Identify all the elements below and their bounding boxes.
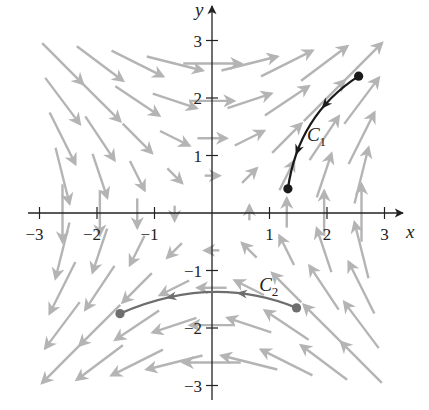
field-arrow [80,81,121,122]
y-tick-label: −1 [184,262,202,281]
x-axis-label: x [405,221,415,242]
field-arrow [50,262,76,313]
field-arrow [242,243,257,258]
field-arrow [301,46,347,81]
field-arrow [265,311,309,340]
field-arrow [228,318,272,333]
field-arrow [344,302,379,348]
field-arrow [349,262,375,313]
field-arrow [265,86,309,115]
x-tick-label: 3 [380,225,389,244]
field-arrow [112,350,163,376]
field-arrow [130,161,145,190]
field-arrow [77,46,123,81]
y-tick-label: −2 [184,319,202,338]
field-arrow [228,94,272,109]
field-arrow [123,124,152,153]
field-arrow [85,266,114,310]
field-arrow [112,51,163,77]
field-arrow [317,154,332,198]
field-arrow [160,131,189,146]
field-arrow [261,51,312,77]
field-arrow [153,94,197,109]
field-arrow [167,168,182,183]
x-tick-label: 2 [323,225,332,244]
field-arrow [344,78,379,124]
y-tick-label: −3 [184,377,202,396]
x-tick-label: −2 [83,225,101,244]
y-tick-label: 3 [194,32,203,51]
field-arrow [301,345,347,380]
field-arrow [279,236,294,265]
y-axis-label: y [193,0,204,20]
field-arrow [304,305,345,346]
x-tick-label: −3 [25,225,43,244]
field-arrow [261,350,312,376]
field-arrow [93,154,108,198]
field-arrow [77,345,123,380]
field-arrow [85,116,114,160]
curve-c1-label: C1 [307,124,326,149]
field-arrow [45,302,80,348]
field-arrow [50,113,76,164]
field-arrow [115,86,159,115]
field-arrow [45,78,80,124]
curves: C1 C2 [115,72,363,319]
y-tick-label: 1 [194,147,203,166]
curve-c2-path [120,292,297,314]
y-tick-label: 2 [194,89,203,108]
curve-c2-start-point [292,303,301,312]
field-arrow [242,168,257,183]
field-arrow [310,266,339,310]
field-arrow [42,43,83,84]
field-arrow [349,113,375,164]
field-arrow [235,131,264,146]
field-arrow [42,342,83,383]
x-tick-label: −1 [140,225,158,244]
x-tick-label: 1 [265,225,274,244]
field-arrow [304,81,345,122]
curve-c2-end-point [115,309,124,318]
curve-c1-start-point [354,72,363,81]
field-arrow [123,273,152,302]
vector-field-plot: −3−2−1123−3−2−1123 x y C1 C2 [0,0,429,410]
field-arrow [167,243,182,258]
curve-c1-end-point [283,184,292,193]
field-arrow [80,305,121,346]
field-arrow [341,342,382,383]
vector-field-figure: −3−2−1123−3−2−1123 x y C1 C2 [0,0,429,410]
